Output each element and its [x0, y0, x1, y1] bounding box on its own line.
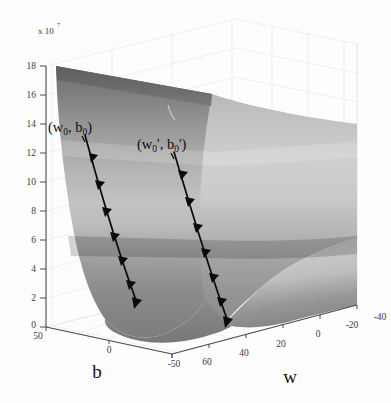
z-tick-6: 6 — [31, 235, 36, 245]
exponent-prefix: x 10 — [38, 26, 54, 36]
cost-surface — [56, 66, 357, 343]
annotation-label-2: (w0', b0') — [137, 136, 187, 154]
annot1-var1: w — [53, 119, 64, 135]
z-tick-18: 18 — [27, 61, 37, 71]
z-tick-2: 2 — [31, 293, 36, 303]
b-axis-label: b — [92, 361, 102, 382]
z-tick-14: 14 — [27, 119, 37, 129]
annot1-comma: , — [68, 119, 75, 135]
z-tick-0: 0 — [31, 320, 36, 330]
w-tick-20: 20 — [276, 339, 286, 349]
z-axis-exponent: x 10 7 — [38, 22, 60, 36]
z-axis-ticks — [40, 66, 46, 327]
w-tick-neg20: -20 — [346, 320, 359, 330]
b-tick-50: 50 — [33, 331, 43, 341]
w-axis-label: w — [283, 366, 297, 387]
w-tick-40: 40 — [239, 348, 249, 358]
annot2-var2: b — [167, 136, 174, 152]
annot2-close: ) — [182, 136, 187, 153]
z-tick-4: 4 — [31, 264, 36, 274]
z-tick-8: 8 — [31, 206, 36, 216]
w-tick-0: 0 — [316, 329, 321, 339]
exponent-value: 7 — [57, 22, 60, 28]
z-tick-10: 10 — [27, 177, 37, 187]
b-tick-0: 0 — [107, 345, 112, 355]
z-tick-16: 16 — [27, 90, 37, 100]
figure-3d-surface-plot: 18 16 14 12 10 8 6 4 2 0 x 10 7 50 0 -50… — [0, 0, 391, 403]
z-tick-labels: 18 16 14 12 10 8 6 4 2 0 — [27, 61, 37, 330]
w-tick-neg40: -40 — [374, 312, 387, 322]
b-tick-neg50: -50 — [168, 359, 181, 369]
annot1-var2: b — [75, 119, 82, 135]
w-tick-60: 60 — [202, 357, 212, 367]
annot1-close: ) — [87, 119, 92, 136]
plot-canvas: 18 16 14 12 10 8 6 4 2 0 x 10 7 50 0 -50… — [0, 0, 391, 403]
z-tick-12: 12 — [27, 148, 37, 158]
annot2-comma: , — [160, 136, 167, 152]
annot2-var1: w — [142, 136, 153, 152]
